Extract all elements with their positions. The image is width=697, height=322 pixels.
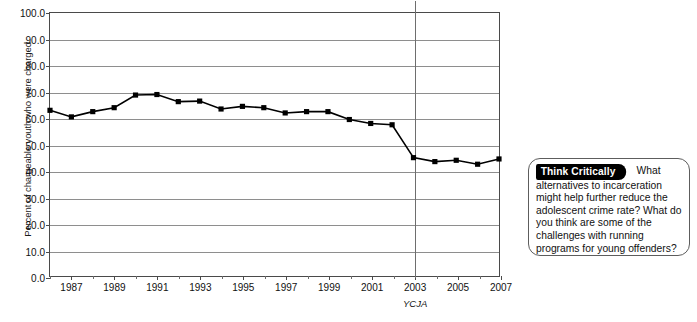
x-tick-mark [243,276,244,280]
data-point-marker [47,108,52,113]
y-tick-label: 60.0 [26,114,45,125]
series-markers [47,92,501,167]
y-tick-label: 80.0 [26,61,45,72]
x-tick-minor [308,276,309,279]
x-tick-mark [458,276,459,280]
x-tick-mark [329,276,330,280]
data-series [50,13,499,276]
callout-text-block: Think CriticallyWhat alternatives to inc… [536,164,688,255]
x-tick-mark [71,276,72,280]
plot-area: 100.090.080.070.060.050.040.030.020.010.… [49,12,500,277]
x-tick-label: 1991 [146,282,168,293]
think-critically-tab: Think Critically [536,164,627,180]
x-tick-label: 2007 [490,282,512,293]
x-tick-label: 2001 [361,282,383,293]
data-point-marker [154,92,159,97]
y-tick-label: 90.0 [26,34,45,45]
data-point-marker [261,105,266,110]
x-tick-mark [372,276,373,280]
data-point-marker [218,106,223,111]
x-tick-mark [501,276,502,280]
data-point-marker [411,155,416,160]
y-tick-label: 0.0 [31,273,45,284]
y-tick-label: 10.0 [26,246,45,257]
data-point-marker [368,121,373,126]
data-point-marker [325,109,330,114]
data-point-marker [432,159,437,164]
x-tick-minor [480,276,481,279]
y-tick-label: 20.0 [26,220,45,231]
y-tick-label: 50.0 [26,140,45,151]
x-tick-minor [93,276,94,279]
data-point-marker [283,110,288,115]
data-point-marker [454,158,459,163]
x-tick-label: 1995 [232,282,254,293]
x-tick-minor [437,276,438,279]
y-tick-label: 100.0 [20,8,45,19]
x-tick-mark [157,276,158,280]
x-tick-label: 1999 [318,282,340,293]
data-point-marker [240,104,245,109]
x-tick-label: 1989 [103,282,125,293]
x-tick-label: 2005 [447,282,469,293]
ycja-annotation-label: YCJA [403,298,427,309]
x-tick-minor [265,276,266,279]
data-point-marker [176,99,181,104]
data-point-marker [112,105,117,110]
x-tick-label: 2003 [404,282,426,293]
data-point-marker [133,92,138,97]
x-tick-minor [50,276,51,279]
x-tick-minor [351,276,352,279]
data-point-marker [90,109,95,114]
data-point-marker [390,122,395,127]
data-point-marker [347,117,352,122]
x-tick-minor [394,276,395,279]
data-point-marker [69,114,74,119]
x-tick-mark [114,276,115,280]
data-point-marker [475,162,480,167]
x-tick-minor [222,276,223,279]
series-line [50,95,499,165]
data-point-marker [304,109,309,114]
y-tick-label: 40.0 [26,167,45,178]
x-tick-minor [136,276,137,279]
x-tick-label: 1993 [189,282,211,293]
x-tick-mark [286,276,287,280]
data-point-marker [197,99,202,104]
chart-figure: Percent of chargeable youth who were cha… [0,0,520,322]
x-tick-minor [179,276,180,279]
y-tick-label: 30.0 [26,193,45,204]
think-critically-callout: Think CriticallyWhat alternatives to inc… [528,158,690,256]
x-tick-label: 1997 [275,282,297,293]
x-tick-mark [200,276,201,280]
data-point-marker [496,156,501,161]
y-tick-label: 70.0 [26,87,45,98]
x-tick-label: 1987 [60,282,82,293]
